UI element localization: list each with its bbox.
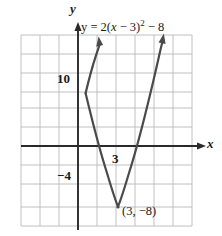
y-axis	[74, 22, 81, 230]
equation-tail: − 8	[145, 20, 165, 34]
x-axis-label: x	[207, 137, 214, 150]
grid-lines	[21, 35, 192, 226]
equation-lhs: y = 2(	[81, 20, 111, 34]
vertex-point	[116, 205, 119, 208]
coordinate-plane-svg	[0, 0, 222, 236]
y-axis-label: y	[70, 2, 76, 15]
graph-figure: y y = 2(x − 3)2 − 8 10 3 −4 (3, −8) x	[0, 0, 222, 236]
vertex-coordinate-label: (3, −8)	[122, 205, 156, 218]
x-axis	[21, 142, 206, 149]
equation-mid: − 3)	[117, 20, 141, 34]
y-tick-label-10: 10	[57, 72, 70, 85]
x-tick-label-3: 3	[112, 152, 119, 165]
equation-label: y = 2(x − 3)2 − 8	[81, 19, 164, 34]
y-tick-label-neg4: −4	[57, 169, 71, 182]
